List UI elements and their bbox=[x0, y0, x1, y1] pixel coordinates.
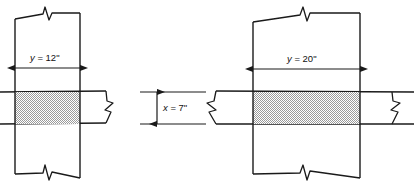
right-intersection-shading bbox=[253, 92, 360, 124]
right-width-dimension-label: y = 20ʺ bbox=[286, 53, 317, 64]
right-beam-top-edge bbox=[216, 91, 414, 92]
right-width-equals: = bbox=[292, 53, 303, 64]
beam-depth-equals: = bbox=[168, 102, 179, 113]
right-detail-group: y = 20ʺ bbox=[207, 7, 414, 180]
right-column-bottom-break-icon bbox=[253, 165, 360, 180]
left-column-bottom-break-icon bbox=[15, 165, 80, 180]
left-width-value: 12ʺ bbox=[46, 52, 60, 63]
right-width-value: 20ʺ bbox=[303, 53, 317, 64]
beam-depth-dimension-label: x = 7ʺ bbox=[162, 102, 187, 113]
left-width-equals: = bbox=[35, 52, 46, 63]
beam-depth-value: 7ʺ bbox=[179, 102, 188, 113]
left-width-dimension-label: y = 12ʺ bbox=[29, 52, 60, 63]
center-dimension-group: x = 7ʺ bbox=[140, 92, 206, 124]
figure-canvas: y = 12ʺ x = 7ʺ bbox=[0, 0, 414, 192]
left-detail-group: y = 12ʺ bbox=[0, 7, 113, 180]
engineering-figure: y = 12ʺ x = 7ʺ bbox=[0, 0, 414, 192]
left-column-top-break-icon bbox=[15, 7, 80, 20]
left-intersection-shading bbox=[15, 92, 80, 124]
right-column-top-break-icon bbox=[253, 7, 360, 22]
